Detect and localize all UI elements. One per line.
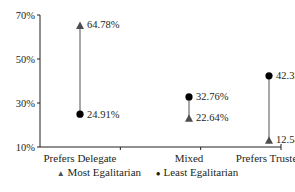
data-label: 42.33% (276, 70, 295, 81)
triangle-marker (185, 114, 193, 122)
data-label: 12.58% (276, 134, 295, 145)
data-label: 24.91% (87, 109, 120, 120)
x-tick-label: Mixed (175, 152, 204, 164)
plot-area: 64.78%24.91%22.64%32.76%12.58%42.33% (76, 19, 295, 145)
data-label: 32.76% (196, 91, 229, 102)
x-tick-label: Prefers Delegate (44, 152, 117, 164)
legend-item-most: ▲ Most Egalitarian (57, 166, 141, 178)
chart: 70%50%30%10%Prefers DelegateMixedPrefers… (0, 0, 295, 192)
y-tick-label: 10% (16, 142, 36, 153)
triangle-marker (265, 136, 273, 144)
circle-marker (265, 72, 272, 79)
legend-item-least: ● Least Egalitarian (156, 166, 238, 178)
triangle-marker (76, 21, 84, 29)
legend-label-most: Most Egalitarian (67, 166, 141, 178)
y-tick-label: 30% (16, 98, 36, 109)
triangle-icon: ▲ (57, 169, 65, 178)
data-label: 22.64% (196, 112, 229, 123)
axes: 70%50%30%10%Prefers DelegateMixedPrefers… (16, 10, 295, 165)
circle-icon: ● (156, 169, 161, 178)
y-tick-label: 70% (16, 10, 36, 21)
circle-marker (76, 111, 83, 118)
x-tick-label: Prefers Trustee (236, 152, 295, 164)
y-tick-label: 50% (16, 54, 36, 65)
legend: ▲ Most Egalitarian ● Least Egalitarian (0, 166, 295, 178)
circle-marker (185, 93, 192, 100)
legend-label-least: Least Egalitarian (163, 166, 238, 178)
data-label: 64.78% (87, 19, 120, 30)
